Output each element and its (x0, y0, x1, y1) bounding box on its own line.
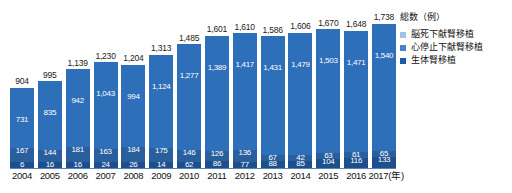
x-axis-tick-label: 2014 (288, 171, 312, 181)
stacked-bar: 94218116 (66, 69, 90, 168)
bar-segment-brain-death-donor: 104 (316, 159, 340, 168)
bar-total-label: 1,738 (374, 13, 394, 22)
bar-segment-living-donor: 994 (121, 65, 145, 147)
x-axis-tick-label: 2005 (38, 171, 62, 181)
bar-segment-value-label: 1,503 (319, 57, 338, 65)
bar-total-label: 1,601 (207, 25, 227, 34)
bar-segment-living-donor: 1,479 (288, 33, 312, 155)
bar-segment-value-label: 994 (127, 93, 139, 101)
bar-segment-living-donor: 1,540 (372, 24, 396, 152)
bar-segment-value-label: 163 (99, 148, 111, 156)
bar-column: 1,2301,04316324 (94, 8, 118, 168)
bar-segment-brain-death-donor: 86 (205, 161, 229, 168)
stacked-bar: 1,38912686 (205, 36, 229, 168)
bar-total-label: 1,139 (68, 59, 88, 68)
stacked-bar: 1,27714662 (177, 44, 201, 168)
plot-area: 9047311676995835144161,139942181161,2301… (10, 8, 396, 168)
stacked-bar: 1,4316788 (261, 36, 285, 168)
stacked-bar: 1,4794285 (288, 33, 312, 168)
bar-segment-living-donor: 1,417 (233, 33, 257, 150)
bar-segment-value-label: 1,277 (180, 72, 199, 80)
x-axis-tick-label: 2007 (94, 171, 118, 181)
bar-segment-value-label: 175 (155, 147, 167, 155)
bar-segment-brain-death-donor: 116 (344, 158, 368, 168)
x-axis-tick-label: 2012 (233, 171, 257, 181)
x-axis-tick-label: 2008 (121, 171, 145, 181)
bar-segment-value-label: 136 (239, 149, 251, 157)
bar-column: 99583514416 (38, 8, 62, 168)
bar-total-label: 1,313 (151, 44, 171, 53)
bar-segment-value-label: 104 (322, 158, 334, 166)
bar-total-label: 1,648 (346, 20, 366, 29)
bar-segment-living-donor: 731 (10, 88, 34, 149)
bar-total-label: 1,610 (235, 23, 255, 32)
legend-swatch-icon (400, 58, 406, 64)
bar-total-label: 1,230 (95, 52, 115, 61)
bar-segment-value-label: 181 (71, 146, 83, 154)
legend-swatch-icon (400, 45, 406, 51)
bar-segment-living-donor: 1,277 (177, 44, 201, 150)
legend-item-label: 心停止下献腎移植 (411, 43, 483, 52)
bar-segment-value-label: 116 (350, 157, 362, 165)
legend-item-cardiac-death-donor: 心停止下献腎移植 (400, 43, 508, 52)
bar-segment-brain-death-donor: 133 (372, 157, 396, 168)
bar-segment-value-label: 146 (183, 149, 195, 157)
bar-column: 1,7381,54065133 (372, 8, 396, 168)
bar-total-label: 1,606 (290, 22, 310, 31)
stacked-bar: 99418426 (121, 65, 145, 168)
bar-total-label: 1,485 (179, 34, 199, 43)
x-axis-tick-label: 2013 (261, 171, 285, 181)
bar-segment-value-label: 85 (296, 160, 304, 168)
legend-item-label: 生体腎移植 (411, 56, 456, 65)
x-axis-tick-label: 2016 (344, 171, 368, 181)
bar-column: 1,6101,41713677 (233, 8, 257, 168)
stacked-bar: 1,04316324 (94, 62, 118, 168)
bar-segment-value-label: 86 (213, 160, 221, 168)
x-axis-tick-label: 2004 (10, 171, 34, 181)
bar-column: 1,13994218116 (66, 8, 90, 168)
bar-segment-value-label: 1,124 (152, 83, 171, 91)
stacked-bar: 1,50363104 (316, 29, 340, 168)
bar-segment-value-label: 1,540 (375, 52, 394, 60)
bar-segment-living-donor: 942 (66, 69, 90, 147)
x-axis-tick-label: 2006 (66, 171, 90, 181)
bar-segment-brain-death-donor: 85 (288, 161, 312, 168)
bar-segment-living-donor: 1,043 (94, 62, 118, 148)
legend-item-living-donor: 生体腎移植 (400, 56, 508, 65)
bar-segment-value-label: 1,471 (347, 59, 366, 67)
bar-segment-living-donor: 1,389 (205, 36, 229, 151)
legend-title: 総数（例） (400, 10, 508, 23)
bar-column: 1,6011,38912686 (205, 8, 229, 168)
bar-total-label: 995 (43, 71, 57, 80)
x-axis-tick-label: 2011 (205, 171, 229, 181)
legend-item-brain-death-donor: 脳死下献腎移植 (400, 30, 508, 39)
stacked-bar: 1,47161116 (344, 31, 368, 168)
bar-segment-brain-death-donor: 88 (261, 161, 285, 168)
legend-swatch-icon (400, 32, 406, 38)
bar-total-label: 1,586 (262, 26, 282, 35)
x-axis-labels: 2004200520062007200820092010201120122013… (10, 171, 396, 187)
bar-column: 9047311676 (10, 8, 34, 168)
bar-segment-value-label: 1,417 (235, 61, 254, 69)
stacked-bar: 83514416 (38, 81, 62, 168)
x-axis-tick-label: 2010 (177, 171, 201, 181)
chart-legend: 総数（例） 脳死下献腎移植 心停止下献腎移植 生体腎移植 (400, 10, 508, 69)
bar-segment-living-donor: 835 (38, 81, 62, 150)
bar-segment-value-label: 1,479 (291, 61, 310, 69)
bar-segment-value-label: 942 (71, 97, 83, 105)
bar-total-label: 904 (15, 77, 29, 86)
bar-segment-living-donor: 1,431 (261, 36, 285, 155)
stacked-bar: 1,12417514 (149, 55, 173, 169)
x-axis-tick-label: 2015 (316, 171, 340, 181)
bar-segment-value-label: 1,043 (96, 90, 115, 98)
bar-segment-value-label: 88 (268, 160, 276, 168)
bar-segment-value-label: 835 (44, 109, 56, 117)
x-axis-line (10, 168, 396, 169)
bar-segment-value-label: 167 (16, 147, 28, 155)
bar-column: 1,3131,12417514 (149, 8, 173, 168)
x-axis-tick-text: 2017(年) (368, 171, 403, 181)
bar-column: 1,4851,27714662 (177, 8, 201, 168)
bar-segment-living-donor: 1,124 (149, 55, 173, 148)
bar-column: 1,6481,47161116 (344, 8, 368, 168)
bar-total-label: 1,204 (123, 54, 143, 63)
